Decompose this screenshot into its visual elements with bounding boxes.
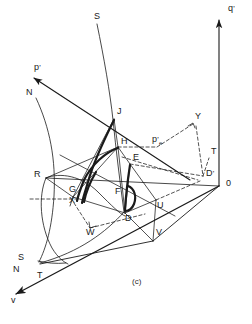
point-label-X: X xyxy=(69,196,75,205)
point-label-zero: 0 xyxy=(226,179,231,188)
axis-v xyxy=(16,186,219,294)
point-label-N-upper: N xyxy=(26,88,33,97)
axis-label-p-prime: p' xyxy=(34,63,41,72)
axis-p-prime xyxy=(34,78,190,180)
point-label-S-lower: S xyxy=(18,253,24,262)
point-label-U: U xyxy=(157,201,164,210)
point-label-J: J xyxy=(117,107,122,116)
technical-diagram-figure: q' p' v S N J Y H p'e T E R D' 0 G F X U… xyxy=(0,0,252,324)
point-label-D-prime: D' xyxy=(206,169,214,178)
point-label-pe-prime: p'e xyxy=(152,135,163,146)
point-label-W: W xyxy=(86,228,95,237)
axis-label-q-prime: q' xyxy=(228,4,235,13)
point-label-E: E xyxy=(133,153,139,162)
point-label-S-top: S xyxy=(94,12,100,21)
axis-label-v: v xyxy=(11,296,16,305)
figure-caption: (c) xyxy=(132,277,141,286)
point-label-R: R xyxy=(34,170,41,179)
point-label-F: F xyxy=(115,187,121,196)
point-label-G: G xyxy=(69,185,76,194)
point-label-D: D xyxy=(125,214,132,223)
point-label-H: H xyxy=(121,137,128,146)
point-label-Y: Y xyxy=(195,112,201,121)
point-label-T-right: T xyxy=(211,147,217,156)
point-label-V: V xyxy=(156,228,162,237)
thin-curves xyxy=(36,24,125,264)
point-label-N-lower: N xyxy=(13,265,20,274)
point-label-T-lower: T xyxy=(37,271,43,280)
